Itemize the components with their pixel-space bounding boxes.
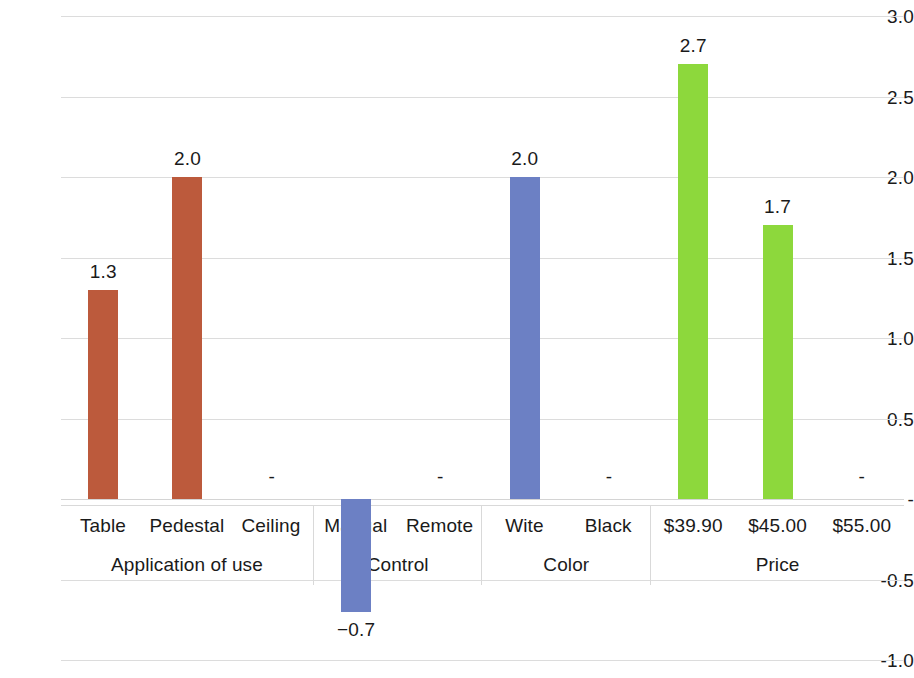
bar-value-label: - bbox=[437, 467, 444, 486]
bar-value-label: - bbox=[859, 467, 866, 486]
bar-value-label: 2.7 bbox=[680, 36, 707, 55]
bar-value-label: 2.0 bbox=[174, 149, 201, 168]
bar-value-label: 1.7 bbox=[764, 197, 791, 216]
bar bbox=[172, 177, 202, 499]
bar bbox=[341, 499, 371, 612]
bar bbox=[763, 225, 793, 499]
bar-chart: 3.02.52.01.51.00.5--0.5-1.0 1.32.0-−0.7-… bbox=[0, 0, 914, 678]
bar-value-label: - bbox=[606, 467, 613, 486]
bar bbox=[510, 177, 540, 499]
bar-value-label: 2.0 bbox=[511, 149, 538, 168]
bar bbox=[678, 64, 708, 499]
bar-value-label: - bbox=[268, 467, 275, 486]
bar-value-label: 1.3 bbox=[90, 262, 117, 281]
bar bbox=[88, 290, 118, 499]
bar-value-label: −0.7 bbox=[337, 620, 375, 639]
plot-area: 1.32.0-−0.7-2.0-2.71.7- bbox=[61, 0, 904, 678]
